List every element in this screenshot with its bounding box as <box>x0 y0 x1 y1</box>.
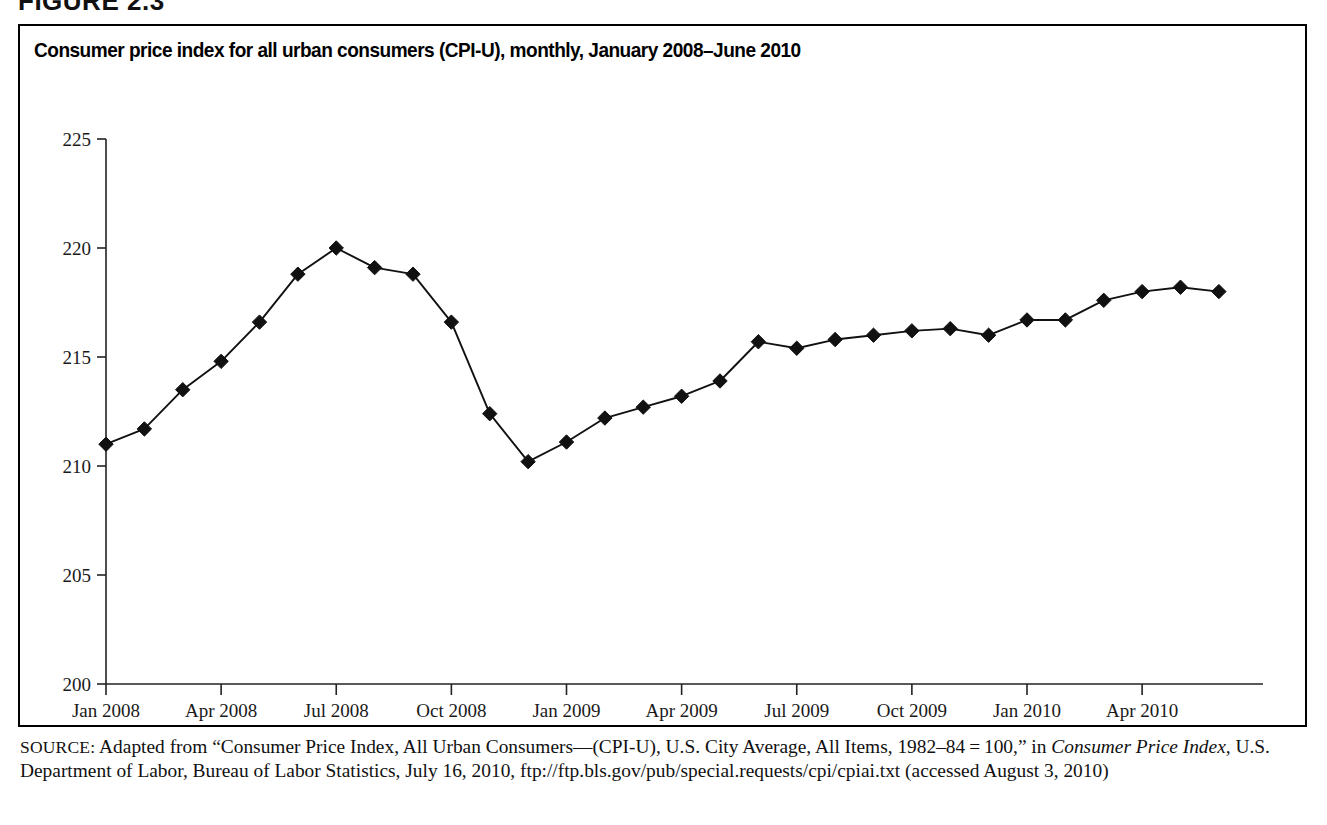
data-point-marker <box>1020 313 1034 327</box>
y-axis-tick-label: 205 <box>63 565 92 586</box>
source-publication-title: Consumer Price Index, <box>1051 736 1230 757</box>
source-text-part1: Adapted from “Consumer Price Index, All … <box>95 736 1051 757</box>
x-axis-tick-label: Jul 2009 <box>764 700 829 721</box>
data-point-marker <box>905 324 919 338</box>
figure-number-label: FIGURE 2.3 <box>18 0 165 17</box>
source-label: SOURCE: <box>20 737 95 757</box>
x-axis-tick-label: Oct 2009 <box>877 700 947 721</box>
figure-box: Consumer price index for all urban consu… <box>18 24 1307 727</box>
data-point-marker <box>1058 313 1072 327</box>
data-point-marker <box>329 241 343 255</box>
source-note: SOURCE: Adapted from “Consumer Price Ind… <box>20 735 1310 783</box>
data-point-marker <box>559 435 573 449</box>
data-point-marker <box>866 328 880 342</box>
x-axis-tick-label: Jan 2010 <box>993 700 1061 721</box>
data-point-marker <box>981 328 995 342</box>
data-point-marker <box>1212 284 1226 298</box>
data-point-marker <box>674 389 688 403</box>
y-axis-tick-label: 225 <box>63 129 92 150</box>
data-point-marker <box>943 321 957 335</box>
data-point-marker <box>828 332 842 346</box>
data-point-marker <box>636 400 650 414</box>
data-point-marker <box>1135 284 1149 298</box>
data-point-marker <box>1097 293 1111 307</box>
x-axis-tick-label: Jul 2008 <box>304 700 369 721</box>
data-point-marker <box>790 341 804 355</box>
data-point-marker <box>1173 280 1187 294</box>
x-axis-tick-label: Jan 2008 <box>72 700 140 721</box>
y-axis-tick-label: 210 <box>63 456 92 477</box>
x-axis-tick-label: Oct 2008 <box>416 700 486 721</box>
data-point-marker <box>598 411 612 425</box>
y-axis-tick-label: 220 <box>63 238 92 259</box>
line-chart-svg: 200205210215220225Jan 2008Apr 2008Jul 20… <box>20 26 1305 725</box>
data-line <box>106 248 1219 462</box>
x-axis-tick-label: Apr 2008 <box>185 700 257 721</box>
y-axis-tick-label: 200 <box>63 674 92 695</box>
x-axis-tick-label: Jan 2009 <box>532 700 600 721</box>
data-point-marker <box>99 437 113 451</box>
x-axis-tick-label: Apr 2009 <box>645 700 717 721</box>
x-axis-tick-label: Apr 2010 <box>1106 700 1178 721</box>
figure-page: FIGURE 2.3 Consumer price index for all … <box>0 0 1327 825</box>
y-axis-tick-label: 215 <box>63 347 92 368</box>
chart-plot-area: 200205210215220225Jan 2008Apr 2008Jul 20… <box>20 26 1305 725</box>
data-point-marker <box>367 260 381 274</box>
